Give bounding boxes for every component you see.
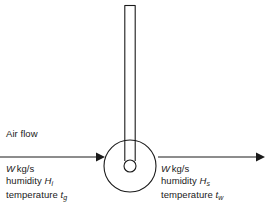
outlet-temperature-line: temperature tw (161, 189, 223, 203)
air-flow-label: Air flow (6, 128, 38, 140)
inlet-temperature-subscript: g (63, 193, 67, 200)
thermometer-tube-icon (125, 6, 136, 162)
outlet-humidity-subscript: s (206, 179, 210, 186)
inlet-properties-label: Wkg/s humidity Hi temperature tg (6, 163, 67, 203)
outlet-humidity-word: humidity (161, 175, 197, 186)
thermometer-bulb-inner-icon (124, 160, 136, 172)
inlet-air-flow-arrow-icon (0, 152, 105, 161)
outlet-properties-label: Wkg/s humidity Hs temperature tw (161, 163, 223, 203)
wet-bulb-thermometer-diagram: Air flow Wkg/s humidity Hi temperature t… (0, 0, 266, 212)
inlet-mass-flow-units: kg/s (17, 163, 35, 174)
outlet-air-flow-arrow-icon (158, 152, 265, 161)
inlet-mass-flow-symbol: W (6, 163, 15, 174)
outlet-mass-flow-symbol: W (161, 163, 170, 174)
inlet-humidity-line: humidity Hi (6, 175, 67, 189)
inlet-temperature-line: temperature tg (6, 189, 67, 203)
outlet-temperature-word: temperature (161, 189, 213, 200)
thermometer-bulb-icon (104, 140, 156, 192)
inlet-mass-flow-line: Wkg/s (6, 163, 67, 175)
outlet-humidity-line: humidity Hs (161, 175, 223, 189)
outlet-mass-flow-units: kg/s (172, 163, 190, 174)
inlet-temperature-word: temperature (6, 189, 58, 200)
inlet-humidity-word: humidity (6, 175, 42, 186)
outlet-temperature-subscript: w (218, 193, 223, 200)
inlet-humidity-subscript: i (51, 179, 53, 186)
air-flow-text: Air flow (6, 128, 38, 140)
outlet-mass-flow-line: Wkg/s (161, 163, 223, 175)
